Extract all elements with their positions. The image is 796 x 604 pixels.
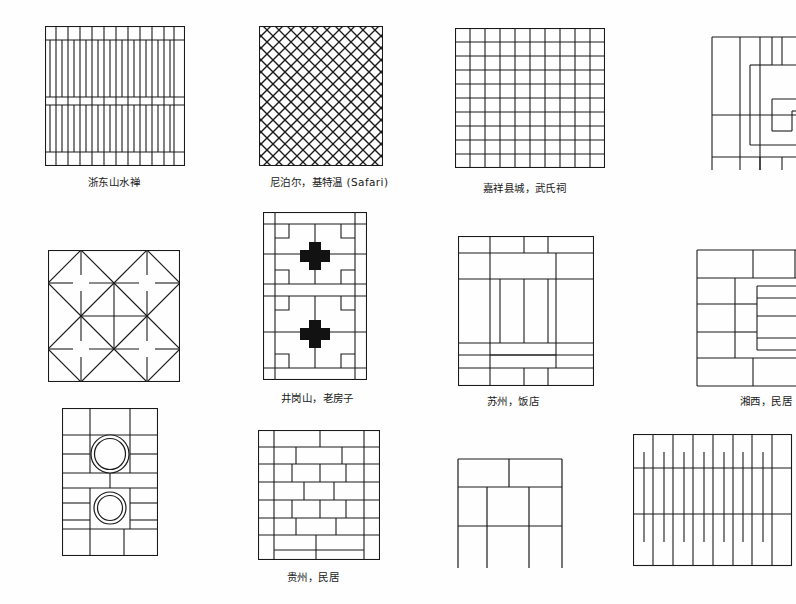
figure-interlocking-rectangles bbox=[458, 236, 594, 386]
figure-octagon-diamond-tiles bbox=[48, 250, 180, 382]
figure-caption: 贵州，民居 bbox=[287, 569, 339, 584]
figure-vertical-plank-bands bbox=[45, 26, 185, 166]
figure-nested-slab-frame bbox=[695, 248, 796, 388]
figure-running-bond-brick bbox=[258, 430, 380, 560]
figure-diagonal-lattice-diamond bbox=[259, 26, 383, 166]
figure-caption: 井岗山，老房子 bbox=[281, 390, 354, 405]
figure-square-grid bbox=[455, 28, 605, 168]
figure-caption: 嘉祥县城，武氏祠 bbox=[483, 180, 566, 195]
plate-page: 浙东山水禅 bbox=[0, 0, 796, 604]
figure-rectangular-spiral-slabs bbox=[710, 35, 796, 170]
figure-caption: 浙东山水禅 bbox=[88, 174, 140, 189]
figure-caption: 苏州，饭店 bbox=[487, 393, 539, 408]
figure-twin-well-circles bbox=[62, 408, 158, 556]
figure-caption: 尼泊尔，基特温 (Safari) bbox=[270, 174, 388, 189]
figure-cross-medallion-court bbox=[263, 212, 367, 380]
figure-caption: 湘西，民居 bbox=[740, 393, 792, 408]
figure-vertical-stripes-with-ticks bbox=[633, 434, 796, 568]
figure-coarse-slab-grid bbox=[457, 458, 563, 568]
